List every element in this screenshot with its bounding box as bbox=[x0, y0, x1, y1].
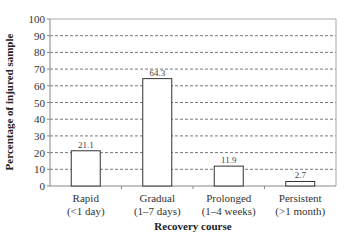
x-category-label: Gradual bbox=[140, 192, 175, 204]
x-axis-title: Recovery course bbox=[154, 220, 231, 232]
bar-value-label: 21.1 bbox=[78, 140, 94, 150]
bar-value-label: 11.9 bbox=[221, 155, 237, 165]
x-category-label: Rapid bbox=[73, 192, 100, 204]
y-axis-ticks: 0102030405060708090100 bbox=[29, 13, 51, 192]
bar bbox=[214, 166, 243, 186]
y-tick-label: 70 bbox=[34, 63, 46, 75]
y-tick-label: 50 bbox=[34, 97, 46, 109]
x-category-label: Persistent bbox=[279, 192, 322, 204]
y-tick-label: 100 bbox=[29, 13, 46, 25]
y-tick-label: 30 bbox=[34, 130, 46, 142]
x-category-label: (1–7 days) bbox=[134, 205, 181, 218]
x-category-label: Prolonged bbox=[206, 192, 252, 204]
bar-value-label: 64.3 bbox=[149, 68, 165, 78]
y-tick-label: 20 bbox=[34, 147, 46, 159]
y-tick-label: 10 bbox=[34, 163, 46, 175]
bar bbox=[71, 151, 100, 186]
y-tick-label: 0 bbox=[40, 180, 46, 192]
y-axis-title: Percentage of injured sample bbox=[3, 34, 15, 171]
x-category-label: (1–4 weeks) bbox=[202, 205, 256, 218]
y-tick-label: 40 bbox=[34, 113, 46, 125]
y-tick-label: 90 bbox=[34, 30, 46, 42]
y-tick-label: 60 bbox=[34, 80, 46, 92]
x-axis-category-labels: Rapid(<1 day)Gradual(1–7 days)Prolonged(… bbox=[67, 192, 326, 218]
bar-value-label: 2.7 bbox=[295, 170, 307, 180]
bar bbox=[286, 181, 315, 186]
bar bbox=[143, 79, 172, 186]
y-tick-label: 80 bbox=[34, 46, 46, 58]
x-category-label: (<1 day) bbox=[67, 205, 105, 218]
x-category-label: (>1 month) bbox=[275, 205, 325, 218]
bar-chart: 0102030405060708090100 21.164.311.92.7 R… bbox=[0, 0, 350, 241]
